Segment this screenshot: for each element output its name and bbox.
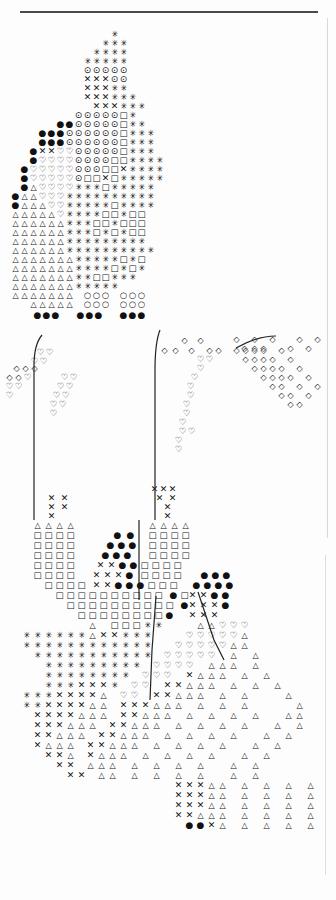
border-grid: [0, 0, 336, 900]
pattern-sheet: ✳✳✳✳✳✳✳✳✳✳✳✳✳⊙⊙⊙⊙⊙✕✕✕⊙⊙✕✕✕✳✳✕✕✕✳✳✳✕✕✕✳✳✳…: [0, 0, 336, 900]
